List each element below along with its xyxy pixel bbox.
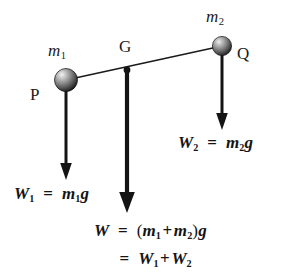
mass-sphere-q (212, 36, 231, 55)
weight-arrow-q (216, 46, 228, 130)
equation-weight-2: W2 = m2g (178, 134, 253, 153)
weight-arrow-g (119, 70, 135, 213)
equation-weight-1: W1 = m1g (14, 185, 89, 204)
connecting-rod (66, 46, 222, 80)
equation-weight-total-line1: W = (m1+m2)g (94, 222, 207, 241)
equation-weight-total-line2: = W1+W2 (118, 250, 192, 269)
mass-sphere-p (55, 69, 78, 92)
mass-label-m2: m2 (206, 8, 224, 27)
point-label-g: G (119, 38, 131, 55)
mass-label-m1: m1 (48, 42, 66, 61)
weight-arrow-p (60, 80, 72, 180)
point-label-p: P (30, 86, 39, 103)
point-label-q: Q (237, 45, 249, 62)
physics-diagram-figure: m1 P G m2 Q W1 = m1g W2 = m2g W = (m1+m2… (0, 0, 294, 280)
centre-of-gravity-dot (124, 67, 131, 74)
